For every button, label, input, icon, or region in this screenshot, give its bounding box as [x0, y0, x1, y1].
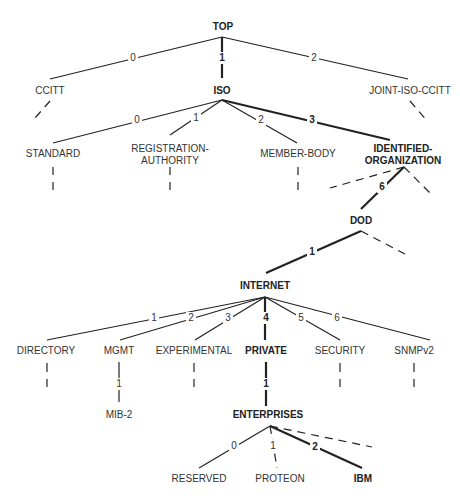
dash-joint [410, 101, 428, 122]
edge-label: 6 [379, 181, 385, 192]
node-dod: DOD [350, 215, 372, 226]
dash-identorg-right [404, 167, 430, 193]
node-enterprises: ENTERPRISES [233, 409, 304, 420]
node-identified-organization-line1: IDENTIFIED- [374, 143, 433, 154]
edge-label: 1 [309, 246, 315, 257]
node-directory: DIRECTORY [17, 345, 76, 356]
node-mgmt: MGMT [104, 345, 135, 356]
edge-label: 1 [151, 312, 157, 323]
edge-label: 1 [193, 112, 199, 123]
node-snmpv2: SNMPv2 [394, 345, 434, 356]
node-labels: TOP CCITT ISO JOINT-ISO-CCITT STANDARD R… [17, 21, 451, 484]
node-experimental: EXPERIMENTAL [156, 345, 233, 356]
node-iso: ISO [213, 85, 230, 96]
edge-internet-snmpv2 [265, 297, 430, 340]
edge-label: 3 [309, 114, 315, 125]
edge-iso-identorg [222, 100, 390, 140]
edge-label: 2 [312, 441, 318, 452]
node-standard: STANDARD [26, 148, 80, 159]
node-security: SECURITY [315, 345, 366, 356]
edge-label: 1 [219, 52, 225, 63]
edge-label: 6 [334, 312, 340, 323]
edge-label: 1 [263, 378, 269, 389]
node-reserved: RESERVED [172, 473, 227, 484]
edge-label: 4 [263, 312, 269, 323]
edge-label: 1 [270, 440, 276, 451]
node-mib-2: MIB-2 [106, 409, 133, 420]
edge-label: 0 [134, 114, 140, 125]
node-ccitt: CCITT [35, 85, 64, 96]
stubs-level2 [53, 167, 298, 190]
node-registration-authority-line2: AUTHORITY [141, 155, 199, 166]
node-ibm: IBM [354, 473, 372, 484]
node-joint-iso-ccitt: JOINT-ISO-CCITT [369, 85, 451, 96]
edge-labels: 0 1 2 0 1 2 3 6 1 1 2 3 4 5 6 1 1 [114, 52, 387, 453]
node-internet: INTERNET [240, 280, 290, 291]
edge-label: 2 [188, 312, 194, 323]
edge-label: 3 [225, 312, 231, 323]
edge-label: 2 [258, 114, 264, 125]
node-private: PRIVATE [245, 345, 287, 356]
node-top: TOP [213, 21, 234, 32]
dash-dod-right [361, 231, 405, 254]
node-member-body: MEMBER-BODY [260, 148, 336, 159]
edge-label: 5 [298, 312, 304, 323]
edge-label: 0 [130, 52, 136, 63]
dash-ccitt [35, 101, 50, 118]
node-proteon: PROTEON [255, 473, 304, 484]
node-identified-organization-line2: ORGANIZATION [365, 155, 441, 166]
dash-enterprises-right [270, 426, 372, 447]
edge-label: 2 [311, 52, 317, 63]
stubs-level-internet [47, 363, 414, 387]
edge-label: 1 [116, 378, 122, 389]
edge-label: 0 [231, 440, 237, 451]
node-registration-authority-line1: REGISTRATION- [131, 143, 209, 154]
oid-tree-diagram: 0 1 2 0 1 2 3 6 1 1 2 3 4 5 6 1 1 [0, 0, 460, 503]
